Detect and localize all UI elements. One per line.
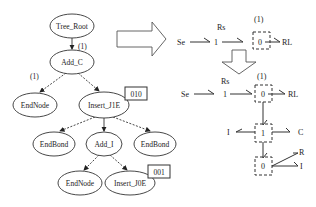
tree-node-endnode_2: EndNode [58,171,102,195]
transform-arrow-down-icon [222,50,256,74]
code-box-text: 010 [130,90,142,99]
bg-top-rs: Rs [217,23,225,32]
bg-bot-se: Se [181,90,189,99]
edge-label: (1) [78,42,87,51]
code-box-text: 001 [153,168,165,177]
svg-text:Tree_Root: Tree_Root [56,22,89,31]
bg-bot-one: 1 [223,90,227,99]
tree-node-add_c: Add_C [50,50,94,74]
bg-bot-i-left: I [227,128,230,137]
svg-text:Insert_J1E: Insert_J1E [88,101,120,110]
tree-node-endnode_1: EndNode [13,93,57,117]
edge-label: (1) [30,72,39,81]
transform-arrow-right-icon [117,22,166,56]
bg-top-rl: RL [282,38,292,47]
diagram-canvas: Tree_RootAdd_CEndNodeInsert_J1EEndBondAd… [0,0,316,207]
bg-top-se: Se [177,38,185,47]
tree-node-endbond_2: EndBond [134,132,176,156]
bg-bot-zero-top: 0 [261,90,265,99]
bg-bot-c: C [298,128,303,137]
bond-graph-top: Se 1 Rs (1) 0 RL [177,15,292,49]
svg-text:Insert_J0E: Insert_J0E [114,179,146,188]
svg-text:EndBond: EndBond [141,140,170,149]
bg-bot-i-right: I [300,162,303,171]
bg-bot-one-mid: 1 [261,129,265,138]
bg-top-one: 1 [214,38,218,47]
bg-bot-rs: Rs [221,77,229,86]
tree-node-add_i: Add_I [86,132,122,156]
bg-bot-r: R [299,148,305,157]
svg-text:EndNode: EndNode [66,179,95,188]
bg-bot-zero-bottom: 0 [261,162,265,171]
svg-text:EndBond: EndBond [40,140,69,149]
tree-node-tree_root: Tree_Root [50,14,94,38]
svg-text:EndNode: EndNode [21,101,50,110]
tree-node-insert_j1e: Insert_J1E [79,92,129,118]
tree-node-endbond_1: EndBond [33,132,75,156]
bg-bot-tag: (1) [257,72,267,81]
bg-bot-rl: RL [288,90,298,99]
bg-top-tag: (1) [254,15,264,24]
svg-text:Add_I: Add_I [94,140,114,149]
bg-top-zero: 0 [258,38,262,47]
svg-text:Add_C: Add_C [61,58,83,67]
bond-graph-bottom: Rs (1) Se 1 0 RL 1 I C 0 R I [181,72,305,175]
